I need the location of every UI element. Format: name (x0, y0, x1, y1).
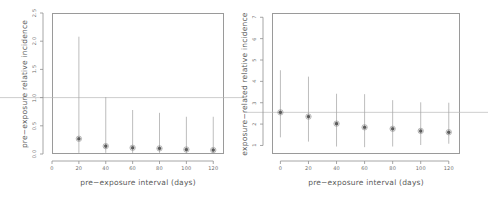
plot-area-right (272, 13, 460, 154)
x-tick-label: 60 (129, 166, 136, 171)
y-tick-label: 2.5 (32, 9, 37, 18)
x-tick-label: 80 (156, 166, 163, 171)
x-tick-label: 0 (50, 166, 53, 171)
x-tick-label: 100 (416, 166, 426, 171)
chart-panel-left: 0204060801001200.00.51.01.52.02.5 pre−ex… (0, 0, 244, 206)
x-tick-label: 40 (102, 166, 109, 171)
plot-area-left (52, 13, 224, 154)
y-tick-label: 3 (252, 101, 257, 104)
figure-canvas: 0204060801001200.00.51.01.52.02.5 pre−ex… (0, 0, 488, 206)
y-axis-title-left: pre−exposure relative incidence (21, 19, 29, 147)
x-tick-label: 80 (389, 166, 396, 171)
y-tick-label: 1 (252, 144, 257, 147)
y-tick-label: 5 (252, 58, 257, 61)
x-tick-label: 120 (208, 166, 218, 171)
y-tick-label: 4 (252, 80, 257, 83)
x-tick-label: 120 (444, 166, 454, 171)
x-axis-title-right: pre−exposure interval (days) (308, 179, 424, 187)
y-tick-label: 1.5 (32, 65, 37, 74)
y-tick-label: 2.0 (32, 37, 37, 46)
x-tick-label: 40 (333, 166, 340, 171)
y-tick-label: 6 (252, 37, 257, 40)
y-tick-label: 0.5 (32, 122, 37, 131)
y-tick-label: 1.0 (32, 93, 37, 102)
x-tick-label: 60 (361, 166, 368, 171)
chart-panel-right: 0204060801001201234567 pre−exposure inte… (244, 0, 488, 206)
y-tick-label: 7 (252, 16, 257, 19)
x-tick-label: 20 (305, 166, 312, 171)
y-tick-label: 0.0 (32, 150, 37, 159)
y-tick-label: 2 (252, 122, 257, 125)
x-tick-label: 100 (181, 166, 191, 171)
x-axis-title-left: pre−exposure interval (days) (80, 179, 196, 187)
x-tick-label: 20 (75, 166, 82, 171)
x-tick-label: 0 (279, 166, 282, 171)
y-axis-title-right: exposure−related relative incidence (241, 12, 249, 155)
